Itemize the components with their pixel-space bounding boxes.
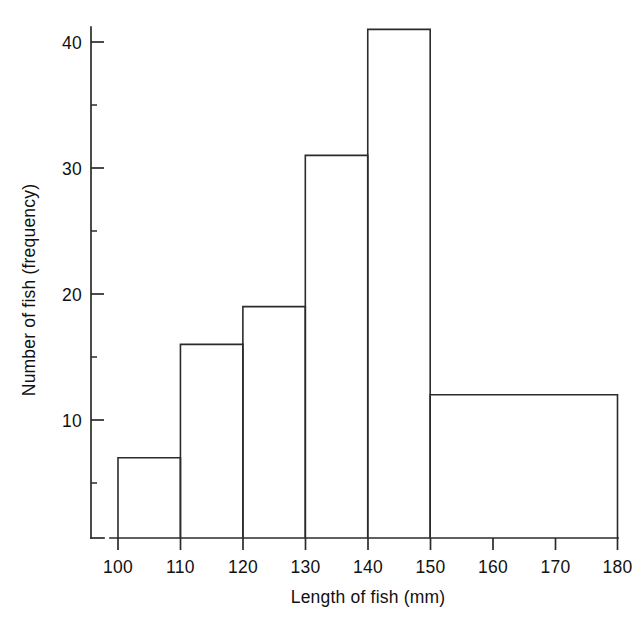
x-tick-label-110: 110: [166, 557, 195, 577]
x-tick-label-160: 160: [478, 557, 508, 577]
histogram-figure: 40 30 20 10 Number of fish (frequency) 1…: [0, 0, 643, 635]
x-tick-label-150: 150: [415, 557, 445, 577]
x-tick-label-170: 170: [540, 557, 570, 577]
x-tick-label-140: 140: [353, 557, 383, 577]
x-tick-label-120: 120: [228, 557, 258, 577]
y-tick-label-30: 30: [62, 159, 82, 179]
y-tick-label-40: 40: [62, 33, 82, 53]
bar-110-120: [180, 344, 242, 538]
bar-100-110: [118, 458, 180, 538]
histogram-svg: 40 30 20 10 Number of fish (frequency) 1…: [0, 0, 643, 635]
bar-140-150: [368, 29, 430, 538]
bar-130-140: [305, 155, 367, 538]
bar-120-130: [243, 307, 305, 538]
bar-150-180: [430, 395, 617, 538]
x-axis-title: Length of fish (mm): [291, 587, 446, 607]
x-tick-label-100: 100: [103, 557, 133, 577]
x-axis: 100 110 120 130 140 150 160 170 180 Leng…: [103, 538, 633, 607]
bars-group: [118, 29, 618, 538]
x-tick-label-180: 180: [602, 557, 632, 577]
x-tick-label-130: 130: [290, 557, 320, 577]
y-tick-label-20: 20: [62, 285, 82, 305]
y-axis-title: Number of fish (frequency): [19, 184, 39, 396]
y-tick-label-10: 10: [62, 411, 82, 431]
y-axis: 40 30 20 10 Number of fish (frequency): [19, 27, 104, 538]
